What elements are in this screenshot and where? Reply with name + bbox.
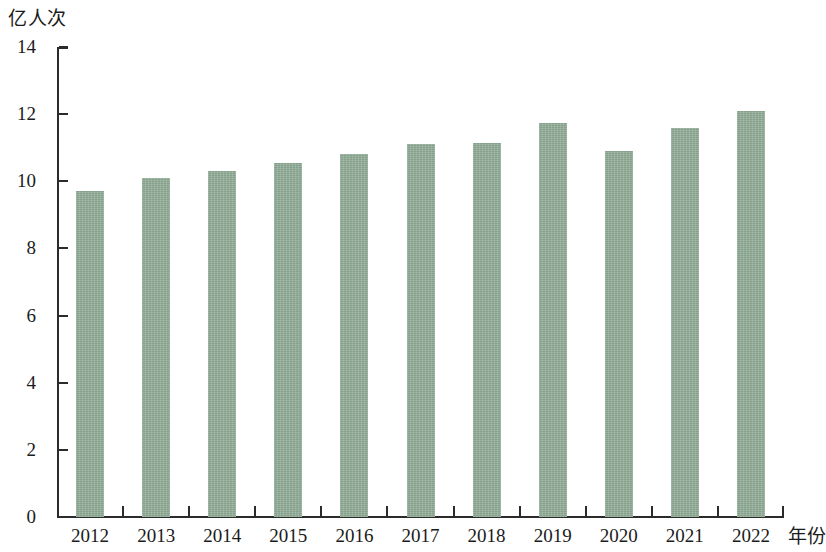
y-tick-label-6: 6 xyxy=(0,306,36,325)
y-tick-label-12: 12 xyxy=(0,104,36,123)
bar-2022 xyxy=(737,111,765,517)
bar-2018 xyxy=(473,143,501,517)
y-tick-label-14: 14 xyxy=(0,37,36,56)
bar-2012 xyxy=(76,191,104,517)
y-axis-unit-label: 亿人次 xyxy=(8,6,67,30)
bar-chart: 亿人次 02468101214 201220132014201520162017… xyxy=(0,0,826,552)
x-tick-5 xyxy=(386,506,388,517)
x-tick-9 xyxy=(651,506,653,517)
bar-2021 xyxy=(671,128,699,517)
x-tick-1 xyxy=(122,506,124,517)
x-tick-10 xyxy=(717,506,719,517)
x-tick-8 xyxy=(585,506,587,517)
y-tick-label-4: 4 xyxy=(0,373,36,392)
bar-2014 xyxy=(208,171,236,517)
y-tick-label-8: 8 xyxy=(0,238,36,257)
x-tick-2 xyxy=(188,506,190,517)
x-tick-4 xyxy=(320,506,322,517)
bars-layer xyxy=(57,47,784,517)
bar-2015 xyxy=(274,163,302,517)
x-tick-3 xyxy=(254,506,256,517)
y-tick-label-2: 2 xyxy=(0,440,36,459)
x-tick-6 xyxy=(453,506,455,517)
x-tick-7 xyxy=(519,506,521,517)
bar-2019 xyxy=(539,123,567,517)
x-axis-title: 年份 xyxy=(788,525,826,547)
bar-2013 xyxy=(142,178,170,517)
bar-2020 xyxy=(605,151,633,517)
y-tick-label-10: 10 xyxy=(0,171,36,190)
x-tick-label-2022: 2022 xyxy=(711,525,791,547)
bar-2016 xyxy=(340,154,368,517)
y-tick-label-0: 0 xyxy=(0,507,36,526)
bar-2017 xyxy=(407,144,435,517)
